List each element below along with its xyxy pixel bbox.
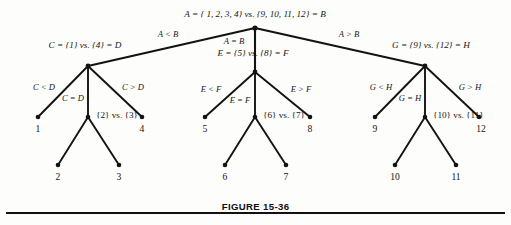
node-label-middle: E = {5} vs. {8} = F xyxy=(216,48,289,58)
edge-label-g-gt-h: G > H xyxy=(459,82,482,92)
edge-label-e-gt-f: E > F xyxy=(290,84,312,94)
caption-divider xyxy=(6,212,505,214)
edge-label-c-lt-d: C < D xyxy=(33,82,56,92)
leaf-label-10: 10 xyxy=(390,171,400,182)
leaf-label-4: 4 xyxy=(140,123,145,134)
edge-label-g-eq-h: G = H xyxy=(399,93,422,103)
edge-label-c-eq-d: C = D xyxy=(62,93,85,103)
node-label-left: C = {1} vs. {4} = D xyxy=(49,40,122,50)
node-dot-right xyxy=(423,64,428,69)
node-label-left-mid: {2} vs. {3} xyxy=(96,110,138,120)
leaf-label-7: 7 xyxy=(284,171,289,182)
decision-tree-diagram: A = { 1, 2, 3, 4} vs. {9, 10, 11, 12} = … xyxy=(0,0,511,225)
leaf-label-1: 1 xyxy=(36,123,41,134)
leaf-dot-9 xyxy=(373,115,378,120)
node-dot-left xyxy=(86,64,91,69)
leaf-dot-left-1 xyxy=(36,115,41,120)
edge-middle-mid-left xyxy=(225,117,255,165)
leaf-dot-8 xyxy=(308,115,313,120)
root-node-label: A = { 1, 2, 3, 4} vs. {9, 10, 11, 12} = … xyxy=(183,9,326,19)
leaf-label-11: 11 xyxy=(451,171,460,182)
edge-left-mid-right xyxy=(88,117,119,165)
leaf-label-3: 3 xyxy=(117,171,122,182)
edge-label-a-lt-b: A < B xyxy=(157,29,179,39)
leaf-dot-left-4 xyxy=(140,115,145,120)
leaf-label-8: 8 xyxy=(308,123,313,134)
node-label-middle-mid: {6} vs. {7} xyxy=(263,110,305,120)
edge-right-mid-right xyxy=(425,117,456,165)
node-dot-middle xyxy=(253,70,258,75)
leaf-dot-3 xyxy=(117,163,122,168)
edge-label-c-gt-d: C > D xyxy=(122,82,145,92)
edge-right-mid-left xyxy=(395,117,425,165)
leaf-label-6: 6 xyxy=(223,171,228,182)
figure-container: A = { 1, 2, 3, 4} vs. {9, 10, 11, 12} = … xyxy=(0,0,511,225)
leaf-label-12: 12 xyxy=(476,123,486,134)
edge-middle-mid-right xyxy=(255,117,286,165)
edge-label-e-lt-f: E < F xyxy=(200,84,222,94)
edge-label-a-gt-b: A > B xyxy=(338,29,360,39)
leaf-dot-11 xyxy=(454,163,459,168)
leaf-label-5: 5 xyxy=(203,123,208,134)
leaf-dot-7 xyxy=(284,163,289,168)
node-label-right: G = {9} vs. {12} = H xyxy=(392,40,471,50)
root-node-dot xyxy=(252,25,257,30)
edge-label-g-lt-h: G < H xyxy=(370,82,393,92)
leaf-dot-2 xyxy=(56,163,61,168)
figure-caption: FIGURE 15-36 xyxy=(222,201,290,212)
leaf-label-2: 2 xyxy=(56,171,61,182)
leaf-dot-10 xyxy=(393,163,398,168)
edge-label-e-eq-f: E = F xyxy=(229,95,251,105)
edge-label-a-eq-b: A = B xyxy=(223,36,245,46)
leaf-dot-6 xyxy=(223,163,228,168)
leaf-dot-5 xyxy=(203,115,208,120)
node-label-right-mid: {10} vs. {11} xyxy=(433,110,484,120)
leaf-label-9: 9 xyxy=(373,123,378,134)
edge-left-mid-left xyxy=(58,117,88,165)
